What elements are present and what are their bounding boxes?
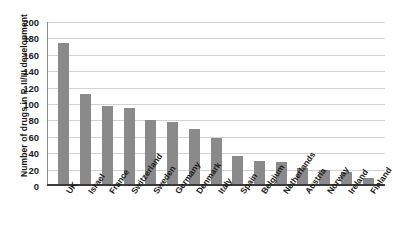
y-axis-tick-label: 120 <box>23 82 39 93</box>
y-axis-tick-label: 160 <box>23 49 39 60</box>
y-axis-tick-label: 0 <box>34 181 39 192</box>
y-axis-tick-label: 60 <box>28 131 39 142</box>
bar-slot <box>357 22 379 186</box>
y-axis-tick-label: 140 <box>23 66 39 77</box>
x-label-slot: Norway <box>314 188 336 248</box>
bar-slot <box>249 22 271 186</box>
x-label-slot: Belgium <box>249 188 271 248</box>
x-label-slot: Germany <box>162 188 184 248</box>
bar-slot <box>162 22 184 186</box>
x-label-slot: Sweden <box>140 188 162 248</box>
x-label-slot: Finland <box>357 188 379 248</box>
x-label-slot: Austria <box>292 188 314 248</box>
x-label-slot: Denmark <box>183 188 205 248</box>
bar-slot <box>53 22 75 186</box>
bar-slot <box>75 22 97 186</box>
x-axis-tick-labels: UKIsraelFranceSwitzerlandSwedenGermanyDe… <box>47 188 385 248</box>
x-label-slot: Ireland <box>336 188 358 248</box>
bar-slot <box>336 22 358 186</box>
y-axis-tick-label: 180 <box>23 33 39 44</box>
x-label-slot: Israel <box>75 188 97 248</box>
y-axis-tick-label: 80 <box>28 115 39 126</box>
y-axis-tick-label: 20 <box>28 164 39 175</box>
y-axis-tick-labels: 200180160140120100806040200 <box>0 22 43 186</box>
bar-chart: Number of drugs in P. II/III development… <box>0 0 393 249</box>
bar <box>80 94 91 186</box>
y-axis-tick-label: 100 <box>23 99 39 110</box>
bar <box>58 43 69 186</box>
x-label-slot: UK <box>53 188 75 248</box>
bar-slot <box>96 22 118 186</box>
y-axis-tick-label: 40 <box>28 148 39 159</box>
bar-slot <box>314 22 336 186</box>
x-label-slot: Italy <box>205 188 227 248</box>
bar-slot <box>227 22 249 186</box>
bar-slot <box>118 22 140 186</box>
bar-slot <box>270 22 292 186</box>
x-label-slot: France <box>96 188 118 248</box>
bar <box>102 106 113 186</box>
x-label-slot: Switzerland <box>118 188 140 248</box>
x-label-slot: Spain <box>227 188 249 248</box>
x-label-slot: Netherlands <box>270 188 292 248</box>
y-axis-tick-label: 200 <box>23 17 39 28</box>
